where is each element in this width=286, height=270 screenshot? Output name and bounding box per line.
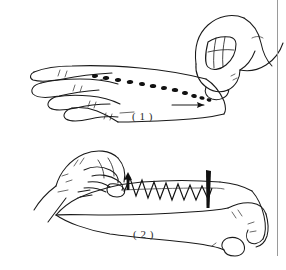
direction-arrow-1 <box>172 102 204 108</box>
stop-bar-marker <box>206 170 211 208</box>
panel-2-artwork <box>34 151 268 256</box>
dotted-treatment-line-1 <box>92 74 212 103</box>
panel-1-artwork <box>30 16 283 122</box>
panel-1-caption: ( 1 ) <box>132 110 153 122</box>
forearm-outline-2 <box>56 181 268 257</box>
pressing-hand-1 <box>196 16 284 100</box>
page-edge-rule <box>277 0 278 256</box>
panel-2-caption: ( 2 ) <box>133 228 154 240</box>
figure-canvas: .ln{fill:none;stroke:#1a1a1a;stroke-widt… <box>0 0 286 270</box>
left-hand-outline-1 <box>30 66 225 122</box>
